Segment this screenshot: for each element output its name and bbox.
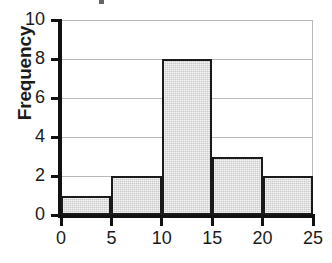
x-tick-20 [261, 218, 264, 226]
x-tick-10 [160, 218, 163, 226]
y-tick-0 [51, 214, 59, 217]
histogram-figure: Frequency 02468100510152025 [0, 0, 332, 263]
y-tick-label-10: 10 [5, 9, 45, 30]
histogram-bar [61, 196, 111, 216]
cropped-title-fragment [99, 0, 104, 4]
x-tick-label-5: 5 [91, 228, 131, 249]
x-tick-15 [211, 218, 214, 226]
y-tick-10 [51, 19, 59, 22]
y-tick-2 [51, 175, 59, 178]
x-tick-label-20: 20 [243, 228, 283, 249]
y-tick-label-0: 0 [5, 204, 45, 225]
y-tick-6 [51, 97, 59, 100]
histogram-bar [263, 176, 313, 215]
histogram-bar [162, 59, 212, 215]
y-tick-label-8: 8 [5, 48, 45, 69]
y-tick-label-2: 2 [5, 165, 45, 186]
x-tick-25 [312, 218, 315, 226]
y-tick-label-6: 6 [5, 87, 45, 108]
x-tick-0 [60, 218, 63, 226]
x-tick-label-25: 25 [293, 228, 332, 249]
y-axis-line [58, 19, 62, 218]
y-tick-4 [51, 136, 59, 139]
histogram-bar [212, 157, 262, 216]
x-tick-5 [110, 218, 113, 226]
y-tick-8 [51, 58, 59, 61]
x-tick-label-0: 0 [41, 228, 81, 249]
gridline-y-10 [61, 20, 313, 21]
y-tick-label-4: 4 [5, 126, 45, 147]
x-tick-label-10: 10 [142, 228, 182, 249]
histogram-bar [111, 176, 161, 215]
x-tick-label-15: 15 [192, 228, 232, 249]
